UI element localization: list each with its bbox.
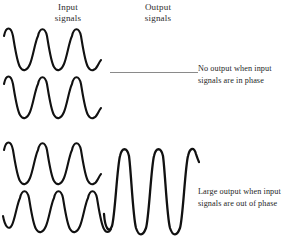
waveform-input-2-in-phase [0,72,110,124]
caption-out-of-phase: Large output when input signals are out … [198,186,294,209]
waveform-input-2-out-of-phase [0,186,115,242]
waveform-output-large [100,146,200,244]
waveform-input-1-out-of-phase [0,138,110,190]
output-signals-header: Output signals [118,2,198,24]
input-signals-header: Input signals [28,2,108,24]
caption-in-phase: No output when input signals are in phas… [198,63,294,86]
waveform-input-1-in-phase [0,24,110,76]
interference-figure: Input signals Output signals No output w… [0,0,294,244]
output-null-line [110,72,198,73]
